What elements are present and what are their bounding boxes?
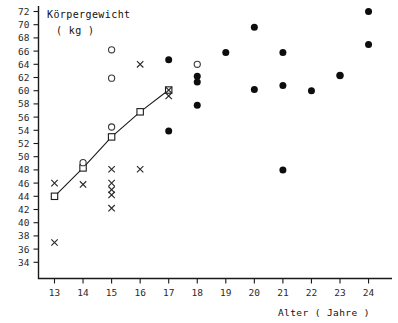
y-tick-label: 68 — [18, 32, 30, 43]
data-point-filled-circle — [194, 79, 201, 86]
data-point-open-circle — [109, 124, 115, 130]
data-point-x — [51, 239, 57, 245]
data-point-x — [80, 181, 86, 187]
y-tick-label: 46 — [18, 178, 30, 189]
scatter-plot: 3436384042444648505254565860626466687072… — [0, 0, 398, 323]
x-tick-label: 14 — [77, 287, 89, 298]
x-tick-label: 19 — [220, 287, 232, 298]
data-point-open-square — [137, 109, 143, 115]
y-tick-label: 56 — [18, 112, 30, 123]
data-point-filled-circle — [251, 86, 258, 93]
data-point-filled-circle — [308, 87, 315, 94]
x-tick-label: 15 — [106, 287, 117, 298]
axis-lines — [39, 6, 393, 279]
data-point-open-circle — [109, 47, 115, 53]
data-point-filled-circle — [279, 82, 286, 89]
chart-canvas: 3436384042444648505254565860626466687072… — [0, 0, 398, 323]
y-tick-label: 50 — [18, 151, 30, 162]
data-point-open-square — [51, 193, 57, 199]
y-tick-label: 62 — [18, 72, 29, 83]
x-tick-label: 24 — [363, 287, 375, 298]
x-axis-ticks: 131415161718192021222324 — [49, 279, 375, 298]
y-tick-label: 48 — [18, 164, 30, 175]
x-tick-label: 16 — [134, 287, 146, 298]
data-point-filled-circle — [279, 49, 286, 56]
data-point-filled-circle — [194, 102, 201, 109]
data-point-x — [137, 61, 143, 67]
data-point-filled-circle — [165, 127, 172, 134]
data-point-filled-circle — [337, 72, 344, 79]
x-tick-label: 13 — [49, 287, 60, 298]
data-point-x — [51, 180, 57, 186]
data-point-x — [108, 205, 114, 211]
y-tick-label: 42 — [18, 204, 29, 215]
data-point-open-circle — [80, 160, 86, 166]
series-line — [55, 90, 169, 196]
y-tick-label: 40 — [18, 217, 30, 228]
data-point-filled-circle — [279, 166, 286, 173]
x-tick-label: 23 — [334, 287, 345, 298]
x-axis-title: Alter ( Jahre ) — [278, 307, 370, 318]
x-tick-label: 21 — [277, 287, 289, 298]
x-tick-label: 18 — [192, 287, 204, 298]
y-tick-label: 44 — [18, 191, 30, 202]
y-tick-label: 54 — [18, 125, 30, 136]
y-tick-label: 34 — [18, 257, 30, 268]
data-point-filled-circle — [165, 56, 172, 63]
y-tick-label: 72 — [18, 6, 29, 17]
y-tick-label: 52 — [18, 138, 29, 149]
data-point-filled-circle — [251, 24, 258, 31]
y-axis-title-line2: ( kg ) — [56, 25, 95, 36]
series-open-circles — [80, 47, 343, 166]
x-tick-label: 17 — [163, 287, 174, 298]
y-axis-title-line1: Körpergewicht — [47, 9, 130, 20]
y-tick-label: 66 — [18, 46, 30, 57]
data-point-open-square — [108, 134, 114, 140]
y-tick-label: 64 — [18, 59, 30, 70]
y-tick-label: 36 — [18, 244, 30, 255]
x-tick-label: 20 — [249, 287, 261, 298]
y-axis-ticks: 3436384042444648505254565860626466687072 — [18, 6, 38, 268]
data-point-filled-circle — [365, 41, 372, 48]
data-point-filled-circle — [365, 8, 372, 15]
x-tick-label: 22 — [306, 287, 317, 298]
series-filled-circles — [165, 8, 372, 173]
data-series — [51, 8, 372, 246]
data-point-x — [108, 180, 114, 186]
y-tick-label: 70 — [18, 19, 30, 30]
series-x-markers — [51, 61, 172, 246]
y-tick-label: 60 — [18, 85, 30, 96]
data-point-x — [108, 166, 114, 172]
data-point-x — [108, 192, 114, 198]
data-point-open-circle — [194, 61, 200, 67]
data-point-open-circle — [109, 75, 115, 81]
data-point-filled-circle — [222, 49, 229, 56]
y-tick-label: 58 — [18, 98, 30, 109]
data-point-x — [137, 166, 143, 172]
y-tick-label: 38 — [18, 230, 30, 241]
